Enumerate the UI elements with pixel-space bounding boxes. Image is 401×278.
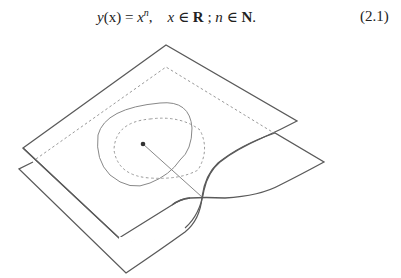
planes-figure [0, 0, 401, 278]
dashed-contour-loop [114, 118, 205, 178]
center-point [141, 142, 146, 147]
lower-plane-outline [19, 133, 324, 273]
connector-line [143, 144, 202, 197]
upper-plane-bottom-edge [23, 148, 190, 238]
